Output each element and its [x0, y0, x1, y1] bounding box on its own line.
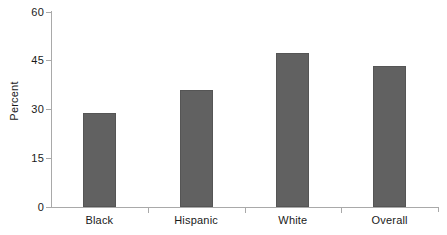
x-tick-mark [148, 208, 149, 213]
y-tick-label: 60 [0, 7, 44, 18]
x-tick-mark [341, 208, 342, 213]
x-tick-label: Hispanic [151, 215, 241, 226]
x-tick-label: Overall [345, 215, 435, 226]
y-tick-label: 0 [0, 202, 44, 213]
bar [180, 90, 213, 207]
bar-chart: Percent 015304560 BlackHispanicWhiteOver… [0, 0, 447, 235]
x-tick-label: White [248, 215, 338, 226]
x-axis-end-tick [438, 207, 439, 212]
plot-area: Percent 015304560 BlackHispanicWhiteOver… [0, 0, 447, 235]
y-tick-mark [46, 158, 51, 159]
y-tick-label: 30 [0, 104, 44, 115]
y-axis-line [51, 11, 52, 208]
y-tick-label: 45 [0, 55, 44, 66]
y-axis-title: Percent [8, 71, 20, 131]
x-tick-mark [245, 208, 246, 213]
bar [276, 53, 309, 207]
y-tick-mark [46, 12, 51, 13]
y-tick-label: 15 [0, 153, 44, 164]
bar [373, 66, 406, 207]
x-tick-label: Black [54, 215, 144, 226]
bar [83, 113, 116, 207]
y-tick-mark [46, 207, 51, 208]
y-tick-mark [46, 60, 51, 61]
y-tick-mark [46, 109, 51, 110]
